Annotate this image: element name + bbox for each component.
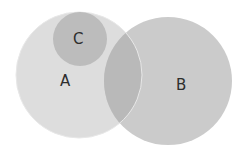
label-b: B: [176, 76, 186, 94]
label-a: A: [60, 72, 71, 90]
venn-diagram: C A B: [0, 0, 246, 152]
label-c: C: [73, 30, 83, 48]
